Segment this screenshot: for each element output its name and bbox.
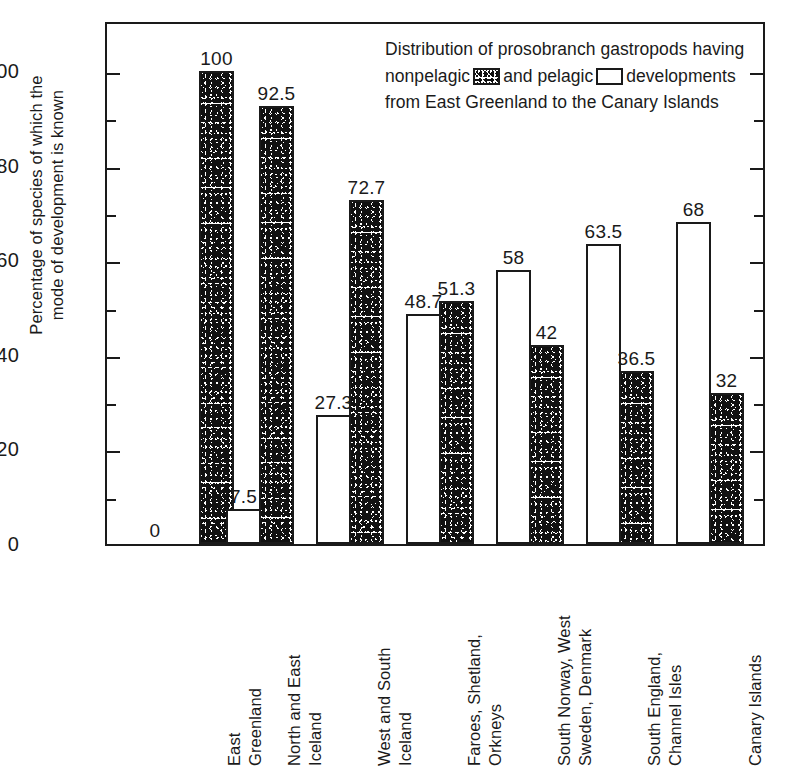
bar-value-label: 27.3 xyxy=(315,392,353,414)
bar-nonpelagic: 32 xyxy=(709,393,744,544)
y-axis-tick xyxy=(107,215,116,217)
y-axis-tick-label: 0 xyxy=(0,533,19,556)
bar-value-label: 0 xyxy=(150,520,161,542)
bar-nonpelagic: 100 xyxy=(199,71,234,544)
x-axis-label-line2: Iceland xyxy=(305,712,326,766)
bar-value-label: 92.5 xyxy=(258,83,296,105)
stippled-swatch-icon xyxy=(473,68,500,85)
y-axis-tick-right xyxy=(750,451,763,453)
x-axis-category-label: South England,Channel Isles xyxy=(642,556,688,766)
y-axis-tick-label: 60 xyxy=(0,249,19,272)
bar-pelagic: 27.3 xyxy=(316,415,351,544)
y-axis-tick-right xyxy=(754,404,763,406)
x-axis-label-line1: Faroes, Shetland, xyxy=(464,634,485,766)
y-axis-tick-right xyxy=(754,499,763,501)
x-axis-category-label: Faroes, Shetland,Orkneys xyxy=(462,556,508,766)
x-axis-category-label: North and EastIceland xyxy=(282,556,328,766)
y-axis-tick-right xyxy=(754,310,763,312)
x-axis-label-line1: South England, xyxy=(644,652,665,766)
bar-value-label: 7.5 xyxy=(230,486,257,508)
y-axis-tick-label: 40 xyxy=(0,343,19,366)
x-axis-label-line2: Orkneys xyxy=(485,704,506,766)
bar-value-label: 58 xyxy=(503,247,525,269)
y-axis-tick-label: 20 xyxy=(0,438,19,461)
bar-pelagic: 48.7 xyxy=(406,314,441,544)
y-axis-tick xyxy=(107,499,116,501)
bar-value-label: 51.3 xyxy=(438,278,476,300)
bar-pelagic: 63.5 xyxy=(586,244,621,544)
y-axis-tick-right xyxy=(754,120,763,122)
bar-value-label: 68 xyxy=(683,199,705,221)
bar-pelagic: 58 xyxy=(496,270,531,544)
y-axis-tick xyxy=(107,404,116,406)
y-axis-tick xyxy=(107,310,116,312)
bar-nonpelagic: 36.5 xyxy=(619,371,654,544)
chart-caption-legend: Distribution of prosobranch gastropods h… xyxy=(385,36,771,116)
y-axis-tick-label: 80 xyxy=(0,154,19,177)
bar-value-label: 63.5 xyxy=(585,221,623,243)
y-axis-tick-label: 100 xyxy=(0,60,19,83)
x-axis-label-line2: Channel Isles xyxy=(665,665,686,766)
y-axis-title-line2: mode of development is known xyxy=(47,90,68,320)
x-axis-category-label: Canary Islands xyxy=(732,556,778,766)
bar-value-label: 36.5 xyxy=(618,348,656,370)
x-axis-label-line2: Greenland xyxy=(245,688,266,766)
y-axis-tick xyxy=(107,451,120,453)
y-axis-tick xyxy=(107,262,120,264)
bar-value-label: 42 xyxy=(536,322,558,344)
y-axis-tick xyxy=(107,168,120,170)
x-axis-category-label: EastGreenland xyxy=(222,556,268,766)
x-axis-label-line2: Sweden, Denmark xyxy=(575,629,596,766)
bar-pelagic: 7.5 xyxy=(226,509,261,544)
bar-value-label: 32 xyxy=(716,370,738,392)
bar-nonpelagic: 92.5 xyxy=(259,106,294,544)
x-axis-label-line1: South Norway, West xyxy=(554,615,575,766)
y-axis-tick-right xyxy=(750,357,763,359)
bar-nonpelagic: 51.3 xyxy=(439,301,474,544)
y-axis-title-line1: Percentage of species of which the xyxy=(26,75,47,334)
x-axis-label-line1: East xyxy=(224,733,245,766)
bar-nonpelagic: 72.7 xyxy=(349,200,384,544)
x-axis-category-label: South Norway, WestSweden, Denmark xyxy=(552,556,598,766)
y-axis-tick xyxy=(107,120,116,122)
x-axis-label-line2: Iceland xyxy=(395,712,416,766)
bar-value-label: 100 xyxy=(200,48,232,70)
bar-value-label: 72.7 xyxy=(348,177,386,199)
x-axis-label-line1: Canary Islands xyxy=(745,655,766,766)
y-axis-tick xyxy=(107,357,120,359)
x-axis-label-line1: North and East xyxy=(284,655,305,766)
caption-part2: and pelagic xyxy=(503,66,593,86)
y-axis-tick-right xyxy=(750,262,763,264)
y-axis-tick-right xyxy=(750,168,763,170)
white-swatch-icon xyxy=(596,68,623,85)
plot-frame: 01007.592.527.372.748.751.3584263.536.56… xyxy=(105,22,765,546)
y-axis-tick xyxy=(107,73,120,75)
y-axis-title: Percentage of species of which the mode … xyxy=(17,0,77,415)
x-axis-category-label: West and SouthIceland xyxy=(372,556,418,766)
bar-pelagic: 68 xyxy=(676,222,711,544)
bar-nonpelagic: 42 xyxy=(529,345,564,544)
x-axis-label-line1: West and South xyxy=(374,647,395,766)
y-axis-tick-right xyxy=(754,215,763,217)
